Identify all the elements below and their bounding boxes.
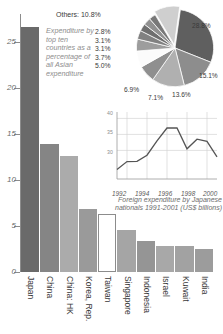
bar-rect — [60, 156, 78, 272]
pie-side-label-1: 2.8% — [95, 28, 117, 37]
bar-israel: Israel — [156, 246, 174, 272]
bar-taiwan: Taiwan — [98, 214, 116, 272]
line-svg — [107, 108, 219, 190]
bar-kuwait: Kuwait — [175, 246, 193, 272]
bar-label: China: HK — [64, 276, 73, 315]
bar-label: India — [199, 276, 208, 294]
bar-china: China — [40, 144, 58, 272]
bar-rect — [117, 230, 135, 272]
bar-rect — [195, 249, 213, 272]
bar-label: Singapore — [122, 276, 131, 315]
bar-label: Israel — [161, 276, 170, 297]
bar-label: Indonesia — [141, 276, 150, 313]
y-label-20: 20 — [0, 84, 16, 92]
pie-side-label-5: 5.0% — [95, 62, 117, 71]
bar-label: China — [45, 276, 54, 298]
bar-label: Kuwait — [180, 276, 189, 302]
y-label-0: 0 — [0, 268, 16, 276]
figure-panel: 0 5 10 15 20 25 JapanChinaChina: HKKorea… — [0, 0, 223, 334]
pie-label-28-8: 28.8% — [192, 22, 211, 29]
line-chart: 40 35 30 — [107, 108, 219, 190]
bar-label: Korea, Rep. — [84, 276, 93, 321]
pie-label-13-6: 13.6% — [172, 91, 191, 98]
pie-label-7-1: 7.1% — [148, 94, 163, 101]
y-label-10: 10 — [0, 176, 16, 184]
bar-rect — [79, 209, 97, 272]
bar-japan: Japan — [21, 27, 39, 272]
line-y-label-30: 30 — [107, 150, 113, 155]
pie-side-label-4: 3.7% — [95, 54, 117, 63]
y-label-15: 15 — [0, 130, 16, 138]
pie-label-6-9: 6.9% — [124, 86, 139, 93]
bar-label: Taiwan — [103, 276, 112, 302]
bar-rect — [40, 144, 58, 272]
line-y-label-40: 40 — [107, 111, 113, 116]
bar-indonesia: Indonesia — [137, 241, 155, 272]
bar-india: India — [195, 249, 213, 272]
pie-label-15-1: 15.1% — [199, 72, 218, 79]
pie-others-label: Others: 10.8% — [56, 11, 101, 18]
pie-side-label-2: 3.1% — [95, 37, 117, 46]
y-label-25: 25 — [0, 38, 16, 46]
bar-rect — [21, 27, 39, 272]
bar-rect — [98, 214, 116, 272]
line-y-label-35: 35 — [107, 130, 113, 135]
pie-side-label-3: 3.1% — [95, 45, 117, 54]
y-label-5: 5 — [0, 222, 16, 230]
bar-singapore: Singapore — [117, 230, 135, 272]
pie-caption: Expenditure by top ten countries as a pe… — [46, 27, 96, 79]
pie-side-label-list: 2.8% 3.1% 3.1% 3.7% 5.0% — [95, 28, 117, 71]
bar-rect — [156, 246, 174, 272]
bar-china-hk: China: HK — [60, 156, 78, 272]
bar-korea-rep: Korea, Rep. — [79, 209, 97, 272]
line-chart-caption: Foreign expenditure by Japanese national… — [110, 196, 222, 213]
bar-rect — [137, 241, 155, 272]
bar-label: Japan — [26, 276, 35, 299]
bar-rect — [175, 246, 193, 272]
